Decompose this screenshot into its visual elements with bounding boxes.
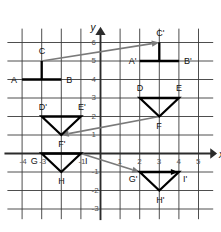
vertex-label-a: A — [11, 76, 17, 85]
x-tick-label-neg3: -3 — [39, 158, 46, 166]
arrow-c-to-c-prime-head — [151, 41, 159, 47]
y-tick-label-1: 1 — [92, 131, 96, 139]
y-axis-arrowhead — [95, 27, 105, 35]
y-tick-label-neg1: -1 — [92, 168, 99, 176]
vertex-label-a-prime: A' — [129, 57, 137, 66]
y-tick-label-neg2: -2 — [92, 187, 99, 195]
vertex-label-g-prime: G' — [129, 175, 138, 184]
vertex-label-f: F — [156, 122, 162, 131]
x-tick-label-neg1: -1 — [78, 158, 85, 166]
vertex-label-d-prime: D' — [39, 103, 47, 112]
vertex-label-e: E — [176, 84, 182, 93]
coordinate-plane-figure: ABCA'B'C'DEFD'E'F'GIHG'I'H'-4-3-11234565… — [0, 0, 221, 232]
x-tick-label-3: 3 — [157, 158, 161, 166]
vertex-label-d: D — [137, 84, 144, 93]
y-tick-label-neg3: -3 — [92, 205, 99, 213]
y-tick-label-3: 3 — [92, 94, 96, 102]
x-tick-label-1: 1 — [118, 158, 122, 166]
arrow-i-to-g-prime — [81, 154, 133, 170]
x-tick-label-4: 4 — [176, 158, 180, 166]
y-tick-label-6: 6 — [92, 39, 96, 47]
vertex-label-g: G — [31, 157, 38, 166]
vertex-label-c-prime: C' — [156, 29, 164, 38]
x-tick-label-2: 2 — [137, 158, 141, 166]
plot-canvas — [0, 0, 221, 232]
vertex-label-b-prime: B' — [184, 57, 192, 66]
vertex-label-h-prime: H' — [156, 196, 164, 205]
x-axis-arrowhead — [210, 148, 217, 158]
arrow-f-to-f-prime — [69, 117, 160, 134]
y-tick-label-2: 2 — [92, 113, 96, 121]
x-tick-label-neg4: -4 — [20, 158, 27, 166]
y-tick-label-4: 4 — [92, 76, 96, 84]
x-axis-name: x — [219, 150, 221, 160]
vertex-label-e-prime: E' — [78, 103, 86, 112]
y-axis-name: y — [91, 23, 96, 33]
vertex-label-f-prime: F' — [58, 140, 65, 149]
vertex-label-b: B — [66, 76, 72, 85]
figure-abc — [22, 61, 61, 80]
vertex-label-i-prime: I' — [183, 175, 187, 184]
x-tick-label-5: 5 — [196, 158, 200, 166]
vertex-label-c: C — [39, 47, 46, 56]
y-tick-label-5: 5 — [92, 57, 96, 65]
vertex-label-h: H — [58, 177, 65, 186]
